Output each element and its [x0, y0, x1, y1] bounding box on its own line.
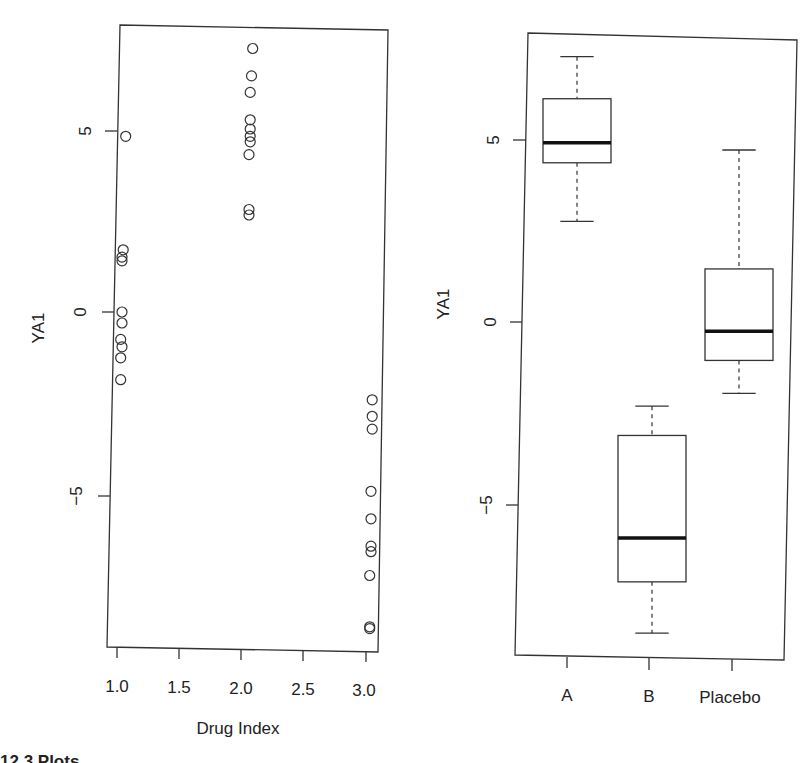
scatter-x-tick-3-0: 3.0: [352, 681, 376, 700]
scatter-point: [116, 375, 126, 385]
box-a: [543, 57, 611, 222]
scatter-x-tick-1-0: 1.0: [105, 677, 129, 696]
box-placebo: [705, 150, 773, 393]
scatter-point: [121, 131, 131, 141]
scatter-x-axis-title: Drug Index: [196, 719, 280, 738]
box-plot-x-axis: A B Placebo: [561, 657, 760, 707]
scatter-point: [245, 87, 255, 97]
box-x-tick-a: A: [561, 686, 573, 705]
scatter-x-tick-1-5: 1.5: [167, 678, 191, 697]
scatter-point: [365, 571, 375, 581]
box-y-tick-neg5: −5: [477, 495, 496, 514]
figure-caption-fragment: 12.3 Plots: [0, 752, 79, 763]
scatter-point: [117, 318, 127, 328]
box-y-axis-title: YA1: [434, 289, 453, 320]
box-y-tick-5: 5: [484, 135, 503, 144]
scatter-points: [116, 44, 378, 634]
scatter-point: [245, 115, 255, 125]
scatter-x-axis: 1.0 1.5 2.0 2.5 3.0 Drug Index: [105, 648, 376, 738]
scatter-point: [248, 44, 258, 54]
scatter-y-tick-5: 5: [76, 126, 95, 135]
scatter-point: [367, 424, 377, 434]
scatter-y-axis-title: YA1: [29, 313, 48, 344]
scatter-point: [366, 514, 376, 524]
scatter-y-tick-neg5: −5: [67, 486, 86, 505]
box-y-tick-0: 0: [481, 317, 500, 326]
scatter-plot-frame: [107, 25, 388, 652]
scatter-x-tick-2-0: 2.0: [229, 679, 253, 698]
scatter-y-tick-0: 0: [71, 307, 90, 316]
scatter-x-tick-2-5: 2.5: [291, 680, 315, 699]
box-plot-boxes: [543, 57, 773, 633]
box-x-tick-placebo: Placebo: [699, 688, 760, 707]
box-plot: 5 0 −5 YA1 A B Placebo: [434, 33, 797, 707]
scatter-y-axis: 5 0 −5 YA1: [29, 126, 117, 505]
box-x-tick-b: B: [643, 687, 654, 706]
box-b: [618, 406, 686, 633]
scatter-point: [117, 307, 127, 317]
scatter-point: [244, 150, 254, 160]
scatter-point: [117, 342, 127, 352]
scatter-point: [367, 411, 377, 421]
scatter-point: [116, 353, 126, 363]
box-plot-y-axis: 5 0 −5 YA1: [434, 135, 526, 514]
scatter-point: [367, 395, 377, 405]
scatter-plot: 5 0 −5 YA1 1.0 1.5 2.0 2.5 3.0 Drug Inde…: [29, 25, 388, 738]
figure-canvas: 5 0 −5 YA1 1.0 1.5 2.0 2.5 3.0 Drug Inde…: [0, 0, 807, 763]
scatter-point: [247, 71, 257, 81]
scatter-point: [366, 486, 376, 496]
